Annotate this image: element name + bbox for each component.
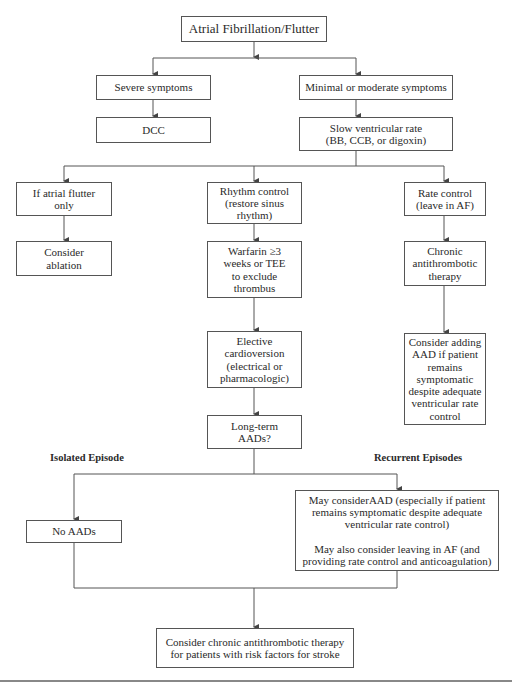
final-recommendation-node: Consider chronic antithrombotic therapy … — [156, 628, 354, 668]
rate-control-node: Rate control (leave in AF) — [404, 182, 486, 216]
title-text: Atrial Fibrillation/Flutter — [189, 23, 319, 35]
consider-adding-aad-node: Consider adding AAD if patient remains s… — [404, 333, 486, 425]
recurrent-episodes-label: Recurrent Episodes — [374, 452, 462, 463]
severe-symptoms-node: Severe symptoms — [96, 75, 211, 100]
no-aads-node: No AADs — [26, 520, 122, 543]
slow-ventricular-rate-node: Slow ventricular rate (BB, CCB, or digox… — [299, 117, 453, 151]
warfarin-text: Warfarin ≥3 weeks or TEE to exclude thro… — [223, 245, 285, 294]
consider-adding-aad-text: Consider adding AAD if patient remains s… — [409, 336, 482, 422]
atrial-flutter-only-text: If atrial flutter only — [33, 187, 95, 212]
chronic-antithrombotic-node: Chronic antithrombotic therapy — [404, 241, 486, 286]
consider-ablation-node: Consider ablation — [16, 241, 112, 276]
warfarin-node: Warfarin ≥3 weeks or TEE to exclude thro… — [207, 241, 302, 298]
no-aads-text: No AADs — [52, 525, 96, 537]
dcc-node: DCC — [96, 117, 211, 143]
final-recommendation-text: Consider chronic antithrombotic therapy … — [166, 636, 345, 661]
elective-cardioversion-node: Elective cardioversion (electrical or ph… — [207, 331, 302, 388]
minimal-symptoms-text: Minimal or moderate symptoms — [305, 81, 446, 93]
chronic-antithrombotic-text: Chronic antithrombotic therapy — [413, 245, 478, 282]
long-term-aads-text: Long-term AADs? — [231, 420, 278, 445]
rate-control-text: Rate control (leave in AF) — [416, 187, 474, 212]
elective-cardioversion-text: Elective cardioversion (electrical or ph… — [220, 335, 289, 384]
consider-ablation-text: Consider ablation — [44, 246, 84, 271]
slow-ventricular-rate-text: Slow ventricular rate (BB, CCB, or digox… — [326, 122, 427, 147]
isolated-episode-label: Isolated Episode — [50, 452, 124, 463]
rhythm-control-text: Rhythm control (restore sinus rhythm) — [220, 185, 289, 222]
severe-symptoms-text: Severe symptoms — [115, 81, 193, 93]
recurrent-options-text: May considerAAD (especially if patient r… — [303, 494, 492, 568]
bottom-divider — [0, 680, 512, 682]
rhythm-control-node: Rhythm control (restore sinus rhythm) — [207, 182, 302, 224]
dcc-text: DCC — [142, 124, 165, 136]
minimal-symptoms-node: Minimal or moderate symptoms — [299, 75, 453, 100]
recurrent-options-node: May considerAAD (especially if patient r… — [295, 490, 499, 571]
title-node: Atrial Fibrillation/Flutter — [181, 16, 327, 42]
long-term-aads-node: Long-term AADs? — [207, 415, 302, 449]
atrial-flutter-only-node: If atrial flutter only — [16, 182, 112, 216]
